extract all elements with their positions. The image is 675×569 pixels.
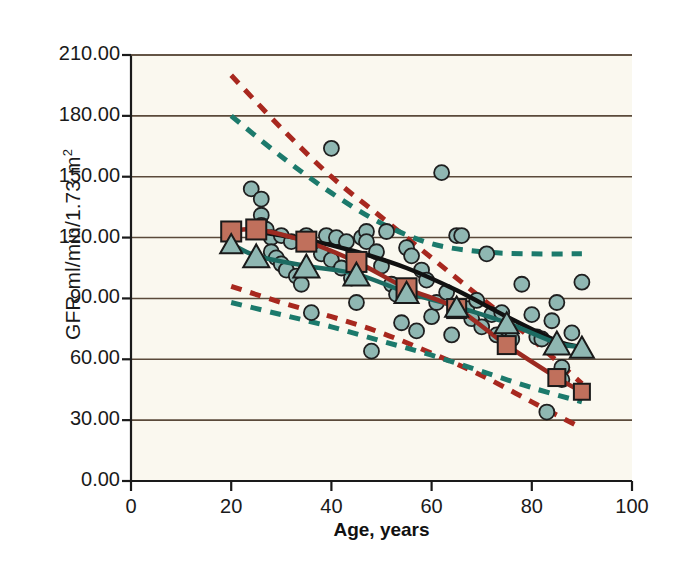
y-tick-label: 150.00 xyxy=(20,164,120,187)
y-tick-label: 180.00 xyxy=(20,103,120,126)
x-tick-label: 80 xyxy=(502,495,562,518)
y-tick-label: 210.00 xyxy=(20,42,120,65)
figure: GFR ml/min/1.73 m2 Age, years 0.0030.006… xyxy=(0,0,675,569)
y-tick-label: 30.00 xyxy=(20,407,120,430)
y-tick-label: 120.00 xyxy=(20,225,120,248)
x-tick-label: 20 xyxy=(201,495,261,518)
x-tick-label: 40 xyxy=(301,495,361,518)
y-tick-label: 60.00 xyxy=(20,346,120,369)
y-tick-label: 90.00 xyxy=(20,285,120,308)
y-axis-label-exponent: 2 xyxy=(60,149,75,156)
x-tick-label: 60 xyxy=(402,495,462,518)
x-axis-label: Age, years xyxy=(131,519,632,541)
x-tick-label: 100 xyxy=(602,495,662,518)
y-tick-label: 0.00 xyxy=(20,468,120,491)
x-tick-label: 0 xyxy=(101,495,161,518)
